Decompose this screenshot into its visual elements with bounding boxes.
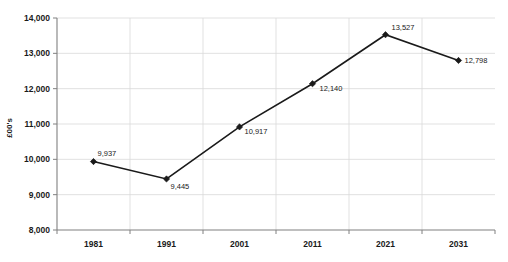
y-tick-label: 8,000 (29, 225, 51, 235)
y-tick-label: 9,000 (29, 190, 51, 200)
data-point-label: 9,937 (98, 149, 117, 158)
y-tick-label: 12,000 (24, 84, 50, 94)
data-point-marker[interactable] (455, 57, 461, 63)
x-tick-label: 1981 (84, 239, 103, 249)
data-point-label: 12,798 (465, 56, 488, 65)
data-point-label: 13,527 (392, 23, 415, 32)
y-axis-title: £00's (5, 118, 14, 138)
y-tick-label: 14,000 (24, 13, 50, 23)
x-tick-label: 2001 (230, 239, 249, 249)
chart-canvas: 8,0009,00010,00011,00012,00013,00014,000… (0, 0, 508, 262)
y-tick-label: 11,000 (24, 119, 50, 129)
y-tick-label: 10,000 (24, 154, 50, 164)
data-point-label: 10,917 (245, 127, 268, 136)
x-tick-label: 1991 (157, 239, 176, 249)
data-point-label: 12,140 (320, 84, 343, 93)
x-tick-label: 2021 (376, 239, 395, 249)
x-tick-label: 2011 (303, 239, 322, 249)
x-tick-label: 2031 (449, 239, 468, 249)
line-chart: 8,0009,00010,00011,00012,00013,00014,000… (0, 0, 508, 262)
data-point-label: 9,445 (171, 182, 190, 191)
y-tick-label: 13,000 (24, 48, 50, 58)
